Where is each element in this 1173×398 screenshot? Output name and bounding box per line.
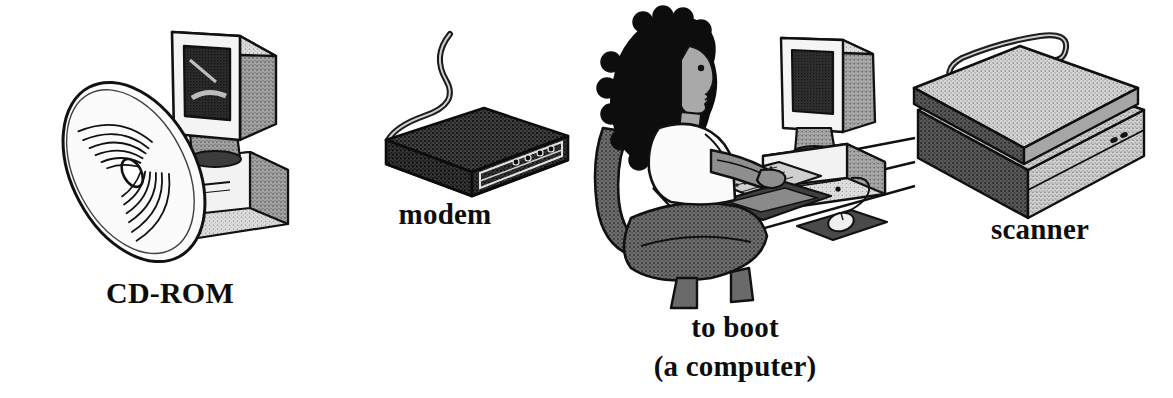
to-boot-illustration [585,10,915,310]
scanner-illustration [900,18,1170,233]
modem-illustration [300,20,590,210]
seated-woman [597,6,785,205]
cd-rom-monitor [172,32,276,140]
label-modem: modem [355,198,535,231]
figure-modem [300,20,590,210]
label-to-boot-sub: (a computer) [620,350,850,383]
to-boot-monitor [781,38,875,160]
label-to-boot: to boot [640,311,830,344]
label-scanner: scanner [945,213,1135,246]
label-cd-rom: CD-ROM [60,276,280,310]
figure-scanner [900,18,1170,233]
cd-rom-illustration [40,12,320,277]
figure-cd-rom [40,12,320,277]
illustration-sheet: CD-ROM [0,0,1173,398]
figure-to-boot [585,10,915,310]
